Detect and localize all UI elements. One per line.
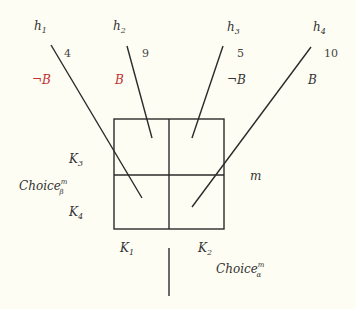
choice-beta-label: Choicemβ: [19, 178, 68, 196]
cell-label-k3: K3: [68, 152, 83, 168]
history-label-h3: h3: [227, 20, 240, 36]
history-value-h2: 9: [142, 47, 149, 60]
condition-h2: B: [114, 73, 124, 87]
branching-diagram: h1 h2 h3 h4 4 9 5 10 ¬B B ¬B B K3 K4 K1 …: [0, 0, 356, 309]
cell-label-k2: K2: [197, 241, 212, 257]
history-line-h3: [192, 46, 223, 138]
condition-h3: ¬B: [227, 73, 246, 87]
history-value-h3: 5: [237, 47, 244, 60]
history-label-h1: h1: [34, 19, 47, 35]
moment-label: m: [250, 169, 261, 183]
history-value-h4: 10: [324, 47, 338, 60]
choice-alpha-label: Choicemα: [216, 261, 265, 279]
cell-label-k4: K4: [68, 205, 83, 221]
condition-h1: ¬B: [32, 73, 51, 87]
history-line-h4: [192, 47, 311, 207]
history-label-h2: h2: [113, 19, 126, 35]
history-value-h1: 4: [64, 47, 71, 60]
history-label-h4: h4: [313, 20, 326, 36]
cell-label-k1: K1: [119, 241, 134, 257]
condition-h4: B: [307, 73, 317, 87]
